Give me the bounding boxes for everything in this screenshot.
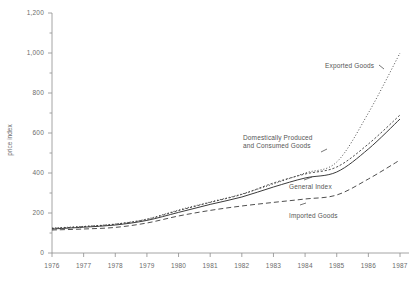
leader-imported [300, 203, 306, 205]
price-index-line-chart: price index 02004006008001,0001,200 1976… [0, 0, 413, 288]
leader-domestic [321, 149, 327, 152]
chart-axes [48, 13, 409, 257]
y-tick-label: 600 [0, 129, 44, 136]
annotation-domestic-goods-line2: and Consumed Goods [243, 142, 313, 150]
annotation-exported-goods: Exported Goods [325, 62, 374, 70]
annotation-exported-goods-text: Exported Goods [325, 62, 374, 69]
series-line [52, 53, 400, 228]
series-line [52, 119, 400, 229]
y-tick-label: 0 [0, 249, 44, 256]
annotation-general-index-text: General Index [289, 183, 332, 190]
annotation-general-index: General Index [289, 183, 332, 191]
x-tick-label: 1987 [380, 262, 413, 269]
y-tick-label: 400 [0, 169, 44, 176]
annotation-domestic-goods-line1: Domestically Produced [243, 134, 313, 142]
annotation-imported-goods-text: Imported Goods [289, 212, 338, 219]
series-line [52, 115, 400, 228]
y-tick-label: 1,200 [0, 9, 44, 16]
chart-series [52, 53, 400, 230]
chart-canvas: price index [0, 0, 413, 288]
y-tick-label: 200 [0, 209, 44, 216]
y-tick-label: 1,000 [0, 49, 44, 56]
y-tick-label: 800 [0, 89, 44, 96]
leader-exported [379, 65, 384, 69]
annotation-imported-goods: Imported Goods [289, 212, 338, 220]
annotation-domestic-goods: Domestically Produced and Consumed Goods [243, 134, 313, 150]
series-line [52, 160, 400, 230]
